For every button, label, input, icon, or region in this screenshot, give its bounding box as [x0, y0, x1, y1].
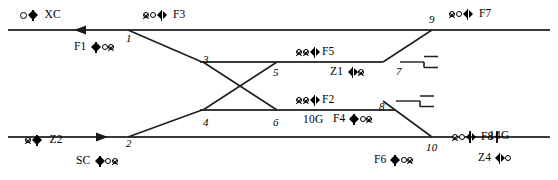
signal-lamp-icon	[102, 44, 108, 50]
signal-mast-icon	[310, 95, 320, 106]
buffer-stop-7-icon	[424, 57, 438, 68]
signal-lamp-icon	[296, 49, 302, 55]
signal-lamp-icon	[407, 157, 413, 163]
signal-Z2[interactable]: Z2	[25, 134, 63, 146]
signal-lamp-icon	[449, 11, 455, 17]
signal-F8[interactable]: F8	[452, 131, 494, 143]
signal-lamp-icon	[105, 158, 111, 164]
signal-label-F3: F3	[173, 9, 186, 21]
signal-SC[interactable]: SC	[76, 155, 118, 167]
switch-label-10: 10	[426, 142, 437, 153]
signal-label-Z4: Z4	[478, 152, 491, 164]
signal-lamp-icon	[505, 155, 511, 161]
signal-lamp-icon	[303, 49, 309, 55]
track-lines-canvas	[0, 0, 558, 180]
buffer-stop-8-icon	[420, 96, 434, 107]
signal-mast-icon	[349, 114, 359, 125]
signal-lamp-icon	[143, 12, 149, 18]
switch-label-2: 2	[126, 138, 132, 149]
signal-lamp-icon	[296, 97, 302, 103]
signal-label-F4: F4	[333, 113, 346, 125]
signal-label-Z2: Z2	[50, 134, 63, 146]
signal-label-SC: SC	[76, 155, 90, 167]
signal-label-F6: F6	[374, 154, 387, 166]
signal-mast-icon	[466, 132, 476, 143]
switch-label-8: 8	[379, 101, 385, 112]
signal-F1[interactable]: F1	[74, 41, 115, 53]
signal-label-XC: XC	[45, 9, 61, 21]
railway-track-diagram: XC F3 F7 F1 F5 Z1	[0, 0, 558, 180]
signal-mast-icon	[390, 155, 400, 166]
signal-F4[interactable]: F4	[333, 113, 373, 125]
switch-label-7: 7	[396, 66, 402, 77]
signal-lamp-icon	[20, 12, 27, 19]
signal-Z1[interactable]: Z1	[330, 66, 365, 78]
signal-mast-icon	[32, 135, 42, 146]
connector-sw2-sw4	[128, 110, 202, 137]
signal-F7[interactable]: F7	[449, 8, 492, 20]
signal-label-Z1: Z1	[330, 66, 343, 78]
signal-mast-icon	[95, 156, 105, 167]
signal-lamp-icon	[459, 134, 465, 140]
connector-sw1-sw3	[128, 30, 202, 62]
signal-mast-icon	[463, 9, 473, 20]
signal-F2[interactable]: F2	[296, 94, 335, 106]
switch-label-1: 1	[126, 33, 132, 44]
signal-lamp-icon	[456, 11, 462, 17]
signal-lamp-icon	[366, 116, 372, 122]
signal-lamp-icon	[360, 116, 366, 122]
signal-Z4[interactable]: Z4	[478, 152, 512, 164]
switch-label-5: 5	[273, 67, 279, 78]
signal-mast-icon	[310, 47, 320, 58]
signal-mast-icon	[495, 153, 505, 164]
signal-mast-icon	[91, 42, 101, 53]
signal-label-F5: F5	[322, 46, 335, 58]
signal-mast-icon	[157, 10, 167, 21]
switch-label-9: 9	[429, 14, 435, 25]
signal-lamp-icon	[150, 12, 156, 18]
direction-arrow-right-bottom	[96, 133, 108, 142]
direction-arrow-left-top	[74, 26, 86, 35]
switch-label-4: 4	[203, 117, 209, 128]
signal-lamp-icon	[112, 158, 118, 164]
switch-label-3: 3	[203, 54, 209, 65]
switch-label-6: 6	[273, 117, 279, 128]
signal-mast-icon	[348, 67, 358, 78]
signal-lamp-icon	[108, 44, 114, 50]
signal-lamp-icon	[401, 157, 407, 163]
signal-label-F7: F7	[479, 8, 492, 20]
signal-lamp-icon	[25, 137, 31, 143]
signal-F5[interactable]: F5	[296, 46, 335, 58]
signal-lamp-icon	[452, 134, 458, 140]
signal-label-F1: F1	[74, 41, 87, 53]
section-label-10G: 10G	[303, 114, 323, 126]
signal-F6[interactable]: F6	[374, 154, 414, 166]
section-label-14G: 14G	[489, 130, 509, 142]
signal-mast-icon	[28, 10, 38, 21]
signal-F3[interactable]: F3	[143, 9, 186, 21]
signal-label-F2: F2	[322, 94, 335, 106]
signal-lamp-icon	[358, 69, 364, 75]
signal-XC[interactable]: XC	[20, 9, 61, 21]
signal-lamp-icon	[303, 97, 309, 103]
